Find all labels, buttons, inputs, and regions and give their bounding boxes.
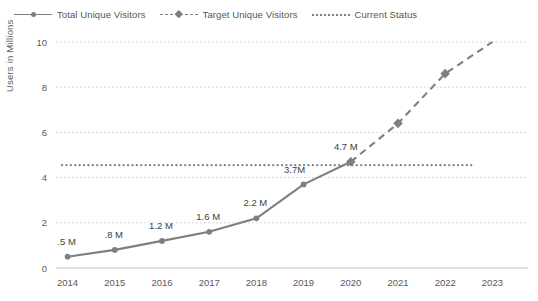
data-point-marker[interactable]: [206, 229, 212, 235]
data-point-label: 4.7 M: [334, 141, 358, 152]
data-point-label: 1.2 M: [149, 220, 173, 231]
data-point-label: .5 M: [57, 236, 76, 247]
y-tick-label: 10: [36, 37, 47, 48]
series-target-unique-visitors: [346, 42, 492, 167]
series-line: [68, 162, 351, 257]
data-point-marker[interactable]: [112, 247, 118, 253]
x-tick-label: 2019: [293, 277, 314, 288]
data-point-marker[interactable]: [159, 238, 165, 244]
y-tick-label: 6: [42, 127, 47, 138]
gridlines: [56, 42, 528, 268]
data-point-label: 3.7M: [284, 164, 305, 175]
y-tick-labels: 0246810: [36, 37, 47, 274]
x-tick-label: 2014: [57, 277, 78, 288]
data-point-marker[interactable]: [301, 181, 307, 187]
data-point-label: 1.6 M: [196, 211, 220, 222]
data-point-label: 2.2 M: [244, 197, 268, 208]
data-point-marker[interactable]: [348, 159, 354, 165]
series-total-unique-visitors: [65, 159, 354, 260]
y-tick-label: 0: [42, 263, 47, 274]
line-chart: Total Unique Visitors Target Unique Visi…: [0, 0, 538, 301]
x-tick-label: 2020: [340, 277, 361, 288]
y-tick-label: 4: [42, 172, 47, 183]
data-point-label: .8 M: [105, 229, 124, 240]
data-point-marker[interactable]: [254, 215, 260, 221]
x-tick-label: 2016: [151, 277, 172, 288]
x-tick-label: 2021: [387, 277, 408, 288]
x-tick-label: 2023: [482, 277, 503, 288]
y-tick-label: 2: [42, 217, 47, 228]
data-point-marker[interactable]: [65, 254, 71, 260]
x-tick-label: 2022: [435, 277, 456, 288]
y-tick-label: 8: [42, 82, 47, 93]
x-tick-label: 2015: [104, 277, 125, 288]
x-tick-label: 2018: [246, 277, 267, 288]
plot-area: 0246810 20142015201620172018201920202021…: [0, 0, 538, 301]
x-tick-labels: 2014201520162017201820192020202120222023: [57, 277, 503, 288]
x-tick-label: 2017: [199, 277, 220, 288]
series-line: [351, 42, 493, 162]
